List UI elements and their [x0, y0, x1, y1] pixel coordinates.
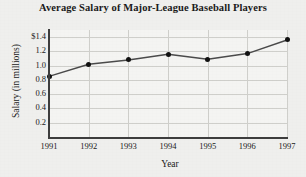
y-axis-title: Salary (in millions) [11, 21, 21, 141]
chart-title: Average Salary of Major-League Baseball … [0, 2, 306, 13]
y-tick-label: 0.2 [2, 117, 46, 127]
x-tick-label: 1993 [108, 141, 148, 151]
x-tick-label: 1991 [29, 141, 69, 151]
data-point [205, 57, 210, 62]
y-tick-label: 0.8 [2, 74, 46, 84]
data-point [86, 62, 91, 67]
x-axis-line [48, 137, 288, 139]
y-tick-label: 0.4 [2, 102, 46, 112]
y-tick-label: 0.6 [2, 88, 46, 98]
data-point [245, 51, 250, 56]
x-tick-label: 1997 [267, 141, 306, 151]
x-tick-label: 1992 [69, 141, 109, 151]
series-line [49, 30, 287, 137]
data-point [166, 52, 171, 57]
y-tick-label: 1.2 [2, 45, 46, 55]
x-axis-tick-labels: 1991199219931994199519961997 [49, 141, 287, 155]
gridline-vertical [287, 30, 288, 137]
y-axis-line [48, 29, 50, 138]
x-tick-label: 1996 [227, 141, 267, 151]
y-tick-label: 1.0 [2, 60, 46, 70]
y-axis-tick-labels: $1.41.21.00.80.60.40.2 [0, 30, 46, 137]
x-tick-label: 1995 [188, 141, 228, 151]
plot-area [49, 30, 287, 137]
x-tick-label: 1994 [148, 141, 188, 151]
x-axis-title: Year [0, 159, 306, 169]
y-tick-label: $1.4 [2, 31, 46, 41]
chart-figure: Average Salary of Major-League Baseball … [0, 0, 306, 177]
